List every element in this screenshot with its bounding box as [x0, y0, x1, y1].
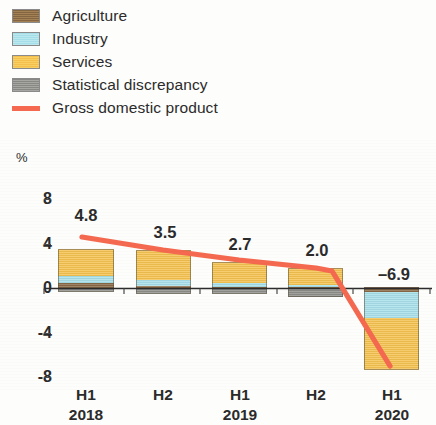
value-label-h1-2018: 4.8	[75, 206, 98, 225]
x-tick-marks	[44, 289, 430, 295]
x-label-h1-2019: H1 2019	[223, 386, 257, 424]
x-label-h2-2019: H2	[306, 386, 326, 406]
x-label-year: 2020	[375, 406, 409, 424]
x-label-year: 2018	[69, 406, 103, 424]
x-label-period: H1	[382, 386, 402, 403]
x-label-period: H2	[153, 386, 173, 403]
gdp-line	[82, 237, 390, 366]
legend-label-industry: Industry	[52, 30, 108, 48]
x-label-period: H1	[230, 386, 250, 403]
chart-legend: Agriculture Industry Services Statistica…	[12, 4, 312, 119]
legend-swatch-services-icon	[12, 55, 40, 69]
legend-label-services: Services	[52, 53, 112, 71]
legend-line-gross-domestic-product-icon	[12, 106, 40, 111]
x-label-h2-2018: H2	[153, 386, 173, 406]
legend-item-statistical-discrepancy: Statistical discrepancy	[12, 73, 312, 96]
legend-swatch-industry-icon	[12, 32, 40, 46]
value-label-h1-2020: –6.9	[378, 265, 410, 284]
legend-swatch-statistical-discrepancy-icon	[12, 78, 40, 92]
value-label-h2-2018: 3.5	[154, 223, 177, 242]
chart-plot-area: 4.8 3.5 2.7 2.0 –6.9	[0, 140, 436, 390]
x-label-period: H2	[306, 386, 326, 403]
x-label-h1-2020: H1 2020	[375, 386, 409, 424]
legend-item-services: Services	[12, 50, 312, 73]
legend-label-gross-domestic-product: Gross domestic product	[52, 99, 218, 117]
legend-swatch-agriculture-icon	[12, 9, 40, 23]
x-label-h1-2018: H1 2018	[69, 386, 103, 424]
x-label-period: H1	[76, 386, 96, 403]
legend-item-agriculture: Agriculture	[12, 4, 312, 27]
legend-item-gross-domestic-product: Gross domestic product	[12, 96, 312, 119]
value-label-h2-2019: 2.0	[306, 241, 329, 260]
legend-label-statistical-discrepancy: Statistical discrepancy	[52, 76, 208, 94]
value-label-h1-2019: 2.7	[229, 235, 252, 254]
chart-vector-layer	[0, 140, 436, 390]
legend-item-industry: Industry	[12, 27, 312, 50]
legend-label-agriculture: Agriculture	[52, 7, 127, 25]
x-label-year: 2019	[223, 406, 257, 424]
